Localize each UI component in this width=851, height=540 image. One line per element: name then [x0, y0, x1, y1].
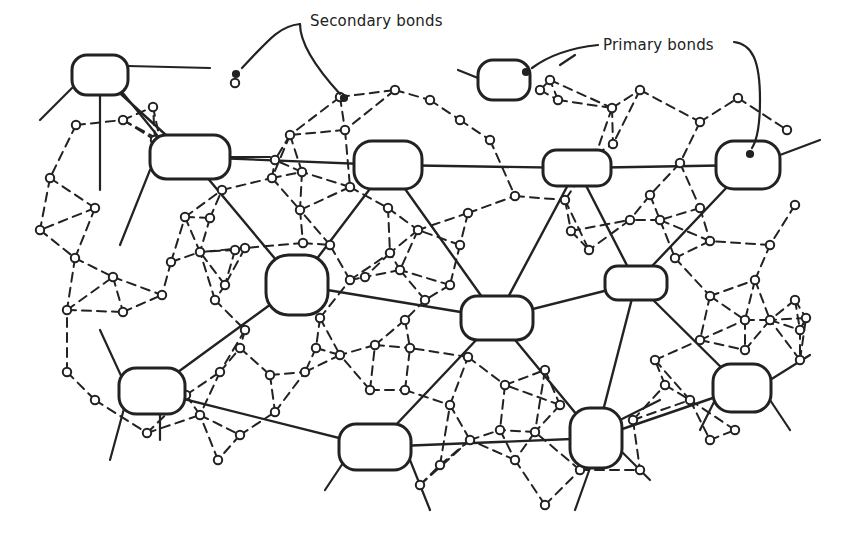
primary-bonds-label: Primary bonds: [603, 36, 714, 54]
primary-molecule: [716, 141, 780, 189]
secondary-molecule: [636, 86, 644, 94]
secondary-bond: [710, 296, 745, 320]
secondary-molecule: [149, 103, 157, 111]
secondary-bond: [515, 460, 545, 505]
secondary-bond: [67, 372, 95, 400]
secondary-molecule: [266, 371, 274, 379]
secondary-molecule: [696, 336, 704, 344]
secondary-bond: [660, 220, 675, 258]
secondary-molecule: [231, 246, 239, 254]
arrowhead-icon: [233, 71, 239, 77]
arrowhead-icon: [747, 151, 753, 157]
secondary-bond: [275, 372, 305, 412]
secondary-bond: [390, 230, 418, 253]
secondary-bond: [515, 196, 565, 200]
secondary-molecule: [384, 204, 392, 212]
primary-molecule: [150, 135, 230, 179]
secondary-molecule: [241, 326, 249, 334]
secondary-molecule: [386, 249, 394, 257]
secondary-molecule: [218, 186, 226, 194]
secondary-bond: [565, 200, 589, 250]
secondary-bond: [680, 122, 700, 163]
secondary-bond: [745, 320, 770, 350]
secondary-bond: [300, 187, 350, 210]
secondary-molecule: [414, 226, 422, 234]
secondary-molecule: [271, 408, 279, 416]
secondary-bond: [375, 345, 410, 348]
primary-bond-stub: [770, 400, 790, 430]
secondary-molecule: [446, 281, 454, 289]
secondary-molecule: [706, 237, 714, 245]
secondary-molecule: [158, 291, 166, 299]
secondary-molecule: [216, 368, 224, 376]
secondary-molecule: [511, 192, 519, 200]
secondary-molecule: [91, 396, 99, 404]
secondary-bond: [345, 90, 395, 130]
secondary-molecule: [63, 368, 71, 376]
secondary-bond: [745, 280, 755, 320]
secondary-bond: [330, 245, 350, 280]
secondary-molecule: [211, 296, 219, 304]
secondary-molecule: [646, 191, 654, 199]
secondary-bonds-label: Secondary bonds: [310, 12, 443, 30]
secondary-molecule: [556, 401, 564, 409]
secondary-molecule: [371, 341, 379, 349]
primary-bond-stub: [560, 55, 575, 65]
primary-molecule: [570, 408, 622, 468]
arrowhead-icon: [523, 69, 529, 75]
secondary-molecule: [143, 429, 151, 437]
secondary-molecule: [206, 214, 214, 222]
secondary-bond: [123, 295, 162, 312]
secondary-molecule: [741, 316, 749, 324]
secondary-bond: [755, 280, 770, 320]
secondary-molecule: [796, 356, 804, 364]
secondary-molecule: [531, 428, 539, 436]
secondary-bond: [50, 125, 76, 178]
network-diagram: [0, 0, 851, 540]
secondary-bond: [67, 258, 75, 310]
secondary-bond: [738, 98, 787, 130]
secondary-bond: [700, 320, 745, 340]
secondary-bond: [365, 270, 400, 277]
secondary-molecule: [326, 241, 334, 249]
secondary-bond: [40, 230, 75, 258]
secondary-molecule: [36, 226, 44, 234]
primary-molecule: [339, 424, 411, 470]
secondary-bond: [440, 405, 450, 465]
secondary-molecule: [706, 292, 714, 300]
secondary-molecule: [696, 118, 704, 126]
secondary-bond: [571, 220, 630, 231]
secondary-bond: [420, 440, 470, 485]
secondary-bond: [710, 241, 770, 245]
secondary-molecule: [486, 136, 494, 144]
secondary-bond: [700, 98, 738, 122]
primary-bond-stub: [120, 170, 150, 245]
secondary-bond: [290, 97, 340, 135]
primary-molecule: [266, 255, 328, 315]
secondary-molecule: [167, 258, 175, 266]
secondary-molecule: [464, 353, 472, 361]
secondary-molecule: [546, 76, 554, 84]
secondary-molecule: [406, 344, 414, 352]
primary-molecule: [119, 368, 185, 414]
secondary-molecule: [91, 204, 99, 212]
secondary-molecule: [221, 281, 229, 289]
secondary-bond: [186, 372, 220, 395]
secondary-bond: [222, 178, 272, 190]
secondary-bond: [50, 178, 95, 208]
secondary-molecule: [796, 326, 804, 334]
secondary-molecule: [731, 426, 739, 434]
secondary-bond: [612, 108, 613, 144]
secondary-bond: [700, 340, 745, 350]
secondary-bond: [460, 120, 490, 140]
secondary-bond: [388, 208, 418, 230]
secondary-bond: [505, 370, 545, 385]
secondary-molecule: [271, 156, 279, 164]
secondary-molecule: [401, 316, 409, 324]
primary-bond-stub: [780, 140, 820, 155]
secondary-bond: [40, 178, 50, 230]
secondary-bond: [290, 135, 302, 172]
secondary-bond: [395, 90, 430, 100]
secondary-molecule: [609, 140, 617, 148]
secondary-molecule: [651, 356, 659, 364]
